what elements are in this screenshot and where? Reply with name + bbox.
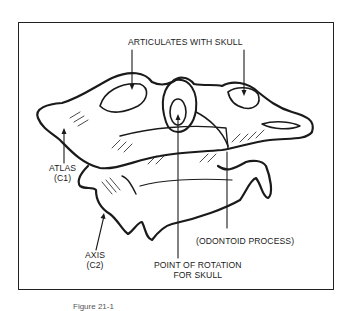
- label-articulates-with-skull: ARTICULATES WITH SKULL: [128, 37, 243, 47]
- atlas-outline: [37, 73, 313, 168]
- label-atlas-code: (C1): [49, 173, 76, 183]
- anterior-arch: [120, 126, 228, 148]
- axis-outline: [79, 161, 271, 240]
- leader-lines: [64, 50, 244, 258]
- right-transverse-foramen: [262, 122, 300, 129]
- transverse-ligament: [196, 112, 228, 146]
- figure-caption: Figure 21-1: [73, 302, 114, 311]
- label-atlas-name: ATLAS: [49, 163, 76, 173]
- label-axis: AXIS (C2): [85, 250, 105, 270]
- axis-spinous-left: [122, 176, 136, 194]
- label-odontoid-process: (ODONTOID PROCESS): [196, 236, 294, 246]
- label-atlas: ATLAS (C1): [49, 163, 76, 183]
- label-point-of-rotation: POINT OF ROTATION FOR SKULL: [154, 260, 242, 280]
- label-axis-name: AXIS: [85, 250, 105, 260]
- axis-inner-body: [140, 179, 232, 186]
- left-facet: [100, 84, 147, 112]
- label-rotation-line1: POINT OF ROTATION: [154, 260, 242, 270]
- label-rotation-line2: FOR SKULL: [154, 270, 242, 280]
- label-axis-code: (C2): [85, 260, 105, 270]
